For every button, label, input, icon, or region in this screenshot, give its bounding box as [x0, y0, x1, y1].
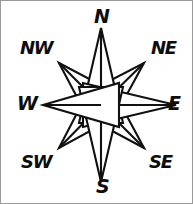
- compass-label-northwest: NW: [20, 39, 53, 57]
- compass-label-west: W: [17, 94, 37, 113]
- compass-label-south: S: [96, 177, 109, 196]
- compass-label-east: E: [168, 94, 180, 113]
- compass-label-southeast: SE: [149, 153, 172, 171]
- compass-label-northeast: NE: [151, 39, 176, 57]
- compass-rose-figure: N NE E SE S SW W NW: [0, 0, 193, 204]
- compass-label-southwest: SW: [21, 153, 51, 171]
- compass-label-north: N: [94, 7, 109, 26]
